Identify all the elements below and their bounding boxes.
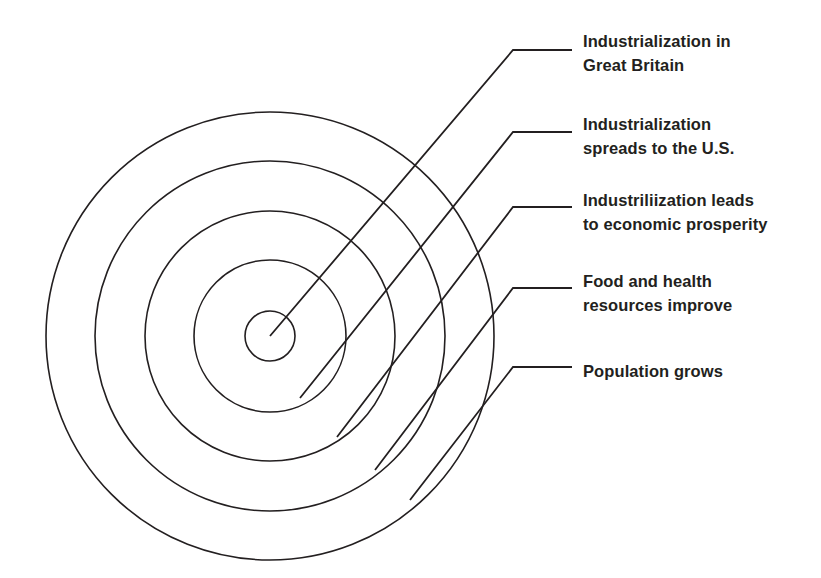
leader-line-4: [375, 288, 572, 470]
leader-line-1: [270, 50, 572, 336]
callout-label-5: Population grows: [583, 360, 723, 384]
leader-line-5: [410, 367, 572, 500]
callout-label-1: Industrialization in Great Britain: [583, 30, 731, 77]
callout-label-3: Industriliization leads to economic pros…: [583, 189, 768, 236]
leader-line-2: [300, 132, 572, 398]
callout-label-2: Industrialization spreads to the U.S.: [583, 113, 734, 160]
leader-line-3: [337, 207, 572, 437]
callout-label-4: Food and health resources improve: [583, 270, 732, 317]
concentric-circles-diagram: Industrialization in Great BritainIndust…: [0, 0, 821, 578]
